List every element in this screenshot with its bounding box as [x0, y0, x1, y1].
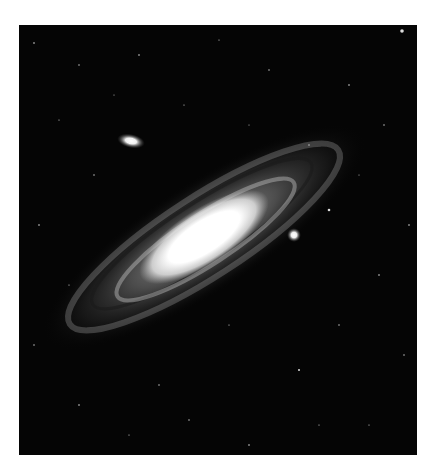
- galaxy-illustration: [19, 25, 417, 455]
- satellite-galaxy: [116, 131, 146, 151]
- galaxy-photo: [19, 25, 417, 455]
- satellite-galaxy: [287, 228, 301, 242]
